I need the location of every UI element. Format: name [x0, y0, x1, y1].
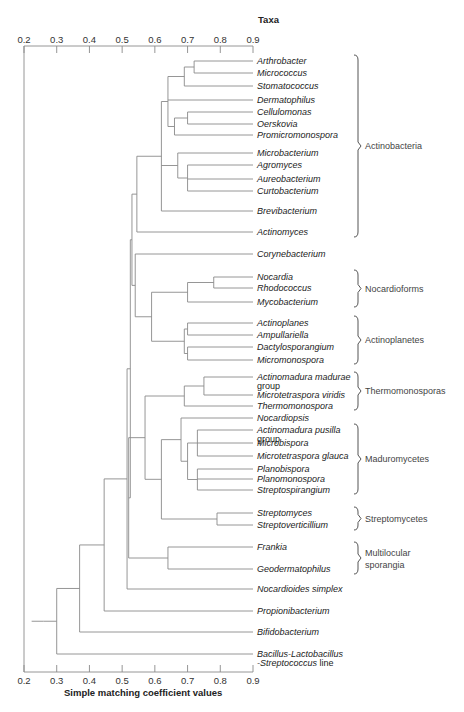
- tick-label-top: 0.2: [17, 34, 30, 45]
- tick-label-bottom: 0.8: [214, 675, 227, 686]
- leaf-label: Micrococcus: [257, 68, 308, 78]
- leaf-label: Agromyces: [256, 160, 303, 170]
- group-label: Nocardioforms: [365, 284, 424, 294]
- leaf-label: Ampullariella: [256, 330, 309, 340]
- leaf-label: Planomonospora: [257, 474, 325, 484]
- bottom-axis: 0.20.30.40.50.60.70.80.9: [17, 665, 259, 686]
- dendrogram-chart: Taxa 0.20.30.40.50.60.70.80.9 0.20.30.40…: [0, 0, 464, 712]
- leaf-label: Streptospirangium: [257, 485, 331, 495]
- leaf-label: Microbispora: [257, 438, 309, 448]
- leaf-label: Nocardiopsis: [257, 413, 310, 423]
- tick-label-bottom: 0.9: [246, 675, 259, 686]
- leaf-label: Stomatococcus: [257, 81, 319, 91]
- tick-label-top: 0.7: [181, 34, 194, 45]
- group-brace: [354, 424, 361, 494]
- leaf-label: Microtetraspora glauca: [257, 451, 349, 461]
- leaf-label: Geodermatophilus: [257, 564, 331, 574]
- tick-label-bottom: 0.4: [83, 675, 96, 686]
- tick-label-bottom: 0.7: [181, 675, 194, 686]
- leaf-label: Actinoplanes: [256, 318, 309, 328]
- group-label-line2: sporangia: [365, 560, 405, 570]
- leaf-label: Oerskovia: [257, 119, 298, 129]
- leaf-label: Brevibacterium: [257, 206, 318, 216]
- leaf-label: Actinomyces: [256, 227, 309, 237]
- leaf-label: Corynebacterium: [257, 249, 326, 259]
- leaf-label: Nocardia: [257, 272, 293, 282]
- tick-label-bottom: 0.5: [116, 675, 129, 686]
- tick-label-bottom: 0.6: [148, 675, 161, 686]
- leaf-label: Promicromonospora: [257, 130, 338, 140]
- tick-label-top: 0.6: [148, 34, 161, 45]
- tick-label-bottom: 0.3: [50, 675, 63, 686]
- leaf-label: Arthrobacter: [256, 56, 308, 66]
- top-axis: 0.20.30.40.50.60.70.80.9: [17, 34, 259, 672]
- group-label: Actinoplanetes: [365, 335, 425, 345]
- leaf-label: Rhodococcus: [257, 283, 312, 293]
- leaf-label: Dermatophilus: [257, 95, 316, 105]
- group-label: Multilocular: [365, 548, 411, 558]
- tree-branches: [32, 61, 253, 654]
- leaf-label: Aureobacterium: [256, 174, 321, 184]
- leaf-label: Frankia: [257, 542, 287, 552]
- group-brace: [354, 316, 361, 364]
- leaf-labels: ArthrobacterMicrococcusStomatococcusDerm…: [256, 56, 351, 668]
- leaf-label: Microtetraspora viridis: [257, 390, 346, 400]
- leaf-label: Dactylosporangium: [257, 342, 335, 352]
- leaf-label: Thermomonospora: [257, 401, 333, 411]
- leaf-label: Streptoverticillium: [257, 520, 329, 530]
- tick-label-top: 0.8: [214, 34, 227, 45]
- leaf-label: Bifidobacterium: [257, 627, 320, 637]
- group-brace: [354, 542, 361, 574]
- tick-label-bottom: 0.2: [17, 675, 30, 686]
- leaf-label: Curtobacterium: [257, 186, 319, 196]
- group-label: Streptomycetes: [365, 514, 428, 524]
- leaf-label: Microbacterium: [257, 148, 319, 158]
- group-brace: [354, 55, 361, 237]
- group-brace: [354, 372, 361, 410]
- group-brace: [354, 270, 361, 307]
- tick-label-top: 0.3: [50, 34, 63, 45]
- leaf-label: Micromonospora: [257, 355, 324, 365]
- leaf-label: Nocardioides simplex: [257, 584, 343, 594]
- tick-label-top: 0.4: [83, 34, 96, 45]
- leaf-label: Mycobacterium: [257, 297, 319, 307]
- leaf-label: Planobispora: [257, 464, 310, 474]
- group-brace: [354, 507, 361, 530]
- tick-label-top: 0.5: [116, 34, 129, 45]
- group-labels: ActinobacteriaNocardioformsActinoplanete…: [354, 55, 446, 574]
- leaf-label: Cellulomonas: [257, 107, 312, 117]
- x-axis-label: Simple matching coefficient values: [64, 687, 222, 698]
- leaf-label: Propionibacterium: [257, 606, 330, 616]
- leaf-label-line2: -Streptococcus line: [257, 658, 334, 668]
- group-label: Thermomonosporas: [365, 386, 446, 396]
- group-label: Maduromycetes: [365, 454, 430, 464]
- group-label: Actinobacteria: [365, 141, 422, 151]
- tick-label-top: 0.9: [246, 34, 259, 45]
- chart-title: Taxa: [258, 14, 280, 25]
- leaf-label: Streptomyces: [257, 508, 313, 518]
